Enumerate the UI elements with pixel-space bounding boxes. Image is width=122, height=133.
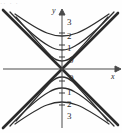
tick-label-upper-1: 1 xyxy=(67,44,72,53)
plot-canvas xyxy=(0,0,122,133)
tick-label-upper-3: 3 xyxy=(67,18,72,27)
y-axis-label: y xyxy=(52,7,56,15)
asymptote-positive-slope xyxy=(3,13,118,128)
tick-label-origin-lower: 0 xyxy=(69,74,74,83)
tick-label-lower-3: 3 xyxy=(67,112,72,121)
x-axis-label: x xyxy=(111,73,115,81)
tick-label-origin-upper: 0 xyxy=(69,56,74,65)
x-axis-arrowhead xyxy=(115,66,121,72)
tick-label-upper-2: 2 xyxy=(67,32,72,41)
y-axis-arrowhead xyxy=(59,9,65,15)
asymptote-negative-slope xyxy=(3,10,118,125)
tick-label-lower-1: 1 xyxy=(67,88,72,97)
hyperbola-figure: ·· · · xyxy=(0,0,122,133)
tick-label-lower-2: 2 xyxy=(67,100,72,109)
